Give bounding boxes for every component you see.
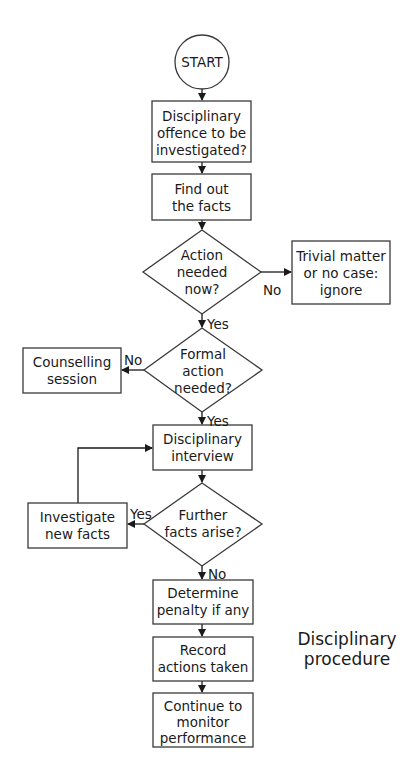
caption-line: procedure xyxy=(304,649,390,669)
node-penalty-line: penalty if any xyxy=(157,602,250,618)
node-penalty: Determine penalty if any xyxy=(153,580,253,624)
node-monitor-line: performance xyxy=(160,730,246,746)
node-offence-line: offence to be xyxy=(157,125,246,141)
node-trivial: Trivial matter or no case: ignore xyxy=(292,241,390,304)
node-facts-line: the facts xyxy=(172,198,231,214)
node-counselling-line: Counselling xyxy=(33,354,112,370)
node-action-now: Action needed now? xyxy=(143,230,261,314)
node-facts-line: Find out xyxy=(174,181,228,197)
node-counselling: Counselling session xyxy=(23,348,121,393)
disciplinary-procedure-flowchart: START Disciplinary offence to be investi… xyxy=(0,0,414,783)
node-further: Further facts arise? xyxy=(144,483,262,566)
node-action-now-line: Action xyxy=(181,247,223,263)
node-investigate-line: new facts xyxy=(45,526,110,542)
node-interview-line: Disciplinary xyxy=(163,431,242,447)
node-action-now-line: needed xyxy=(177,264,228,280)
label-formal-no: No xyxy=(124,352,142,368)
label-action-no: No xyxy=(263,282,281,298)
node-penalty-line: Determine xyxy=(167,585,238,601)
label-action-yes: Yes xyxy=(206,316,229,332)
node-further-line: facts arise? xyxy=(164,524,241,540)
node-counselling-line: session xyxy=(47,371,97,387)
node-facts: Find out the facts xyxy=(152,174,251,220)
label-formal-yes: Yes xyxy=(206,413,229,429)
node-investigate-line: Investigate xyxy=(40,509,115,525)
node-monitor-line: Continue to xyxy=(164,698,243,714)
node-offence-line: Disciplinary xyxy=(162,108,241,124)
node-further-line: Further xyxy=(179,507,228,523)
node-formal-line: needed? xyxy=(174,380,232,396)
edge-investigate-interview-loop xyxy=(78,448,152,503)
node-record-line: Record xyxy=(180,642,227,658)
node-formal-line: Formal xyxy=(180,346,226,362)
node-record: Record actions taken xyxy=(153,637,253,681)
node-investigate: Investigate new facts xyxy=(28,503,127,548)
node-trivial-line: or no case: xyxy=(304,265,379,281)
node-record-line: actions taken xyxy=(158,659,249,675)
node-monitor-line: monitor xyxy=(177,714,230,730)
node-trivial-line: Trivial matter xyxy=(295,248,386,264)
node-trivial-line: ignore xyxy=(320,282,363,298)
diagram-caption: Disciplinary procedure xyxy=(297,629,396,669)
node-formal: Formal action needed? xyxy=(144,328,262,412)
node-monitor: Continue to monitor performance xyxy=(153,693,253,747)
node-offence-line: investigated? xyxy=(156,142,247,158)
node-interview-line: interview xyxy=(171,448,234,464)
label-further-no: No xyxy=(208,566,226,582)
node-offence: Disciplinary offence to be investigated? xyxy=(152,101,251,162)
node-interview: Disciplinary interview xyxy=(153,425,252,470)
node-formal-line: action xyxy=(182,363,224,379)
node-start: START xyxy=(175,35,229,89)
node-action-now-line: now? xyxy=(184,281,219,297)
node-start-text: START xyxy=(181,54,223,70)
caption-line: Disciplinary xyxy=(297,629,396,649)
label-further-yes: Yes xyxy=(129,506,152,522)
